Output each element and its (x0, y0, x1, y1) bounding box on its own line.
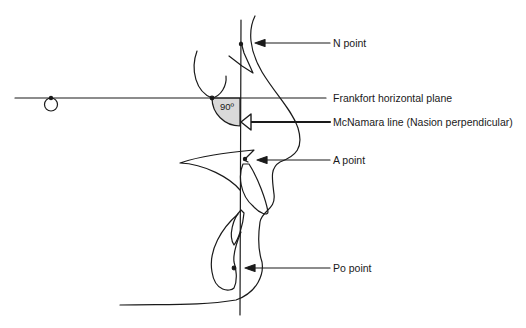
frankfort-label: Frankfort horizontal plane (333, 92, 452, 104)
cephalometric-diagram (0, 0, 526, 328)
n-point-label: N point (333, 37, 366, 49)
n-point-arrowhead-icon (255, 40, 265, 47)
a-point-label: A point (333, 154, 365, 166)
orbit-outline (194, 51, 226, 98)
po-point-label: Po point (333, 262, 372, 274)
a-point-arrowhead-icon (257, 157, 267, 164)
angle-label: 90º (220, 102, 234, 112)
upper-incisor-outline (240, 164, 268, 214)
po-point-arrowhead-icon (245, 265, 255, 272)
mandible-symphysis-outline (211, 214, 241, 290)
maxilla-outline (180, 150, 254, 190)
mcnamara-hollow-arrowhead-icon (241, 114, 251, 130)
mcnamara-label: McNamara line (Nasion perpendicular) (333, 116, 513, 128)
